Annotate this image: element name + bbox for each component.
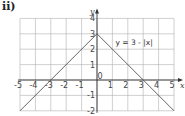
- svg-text:-1: -1: [87, 91, 95, 100]
- svg-text:2: 2: [90, 45, 95, 54]
- svg-text:5: 5: [169, 81, 174, 90]
- axes: [18, 8, 183, 112]
- graph: -5-4-3-2-1012345-2-11234 y = 3 - |x| x y: [0, 0, 185, 116]
- x-axis-label: x: [180, 81, 185, 90]
- svg-text:3: 3: [139, 81, 144, 90]
- svg-text:4: 4: [154, 81, 159, 90]
- svg-text:-2: -2: [60, 81, 68, 90]
- y-axis-label: y: [89, 7, 95, 16]
- equation-label: y = 3 - |x|: [115, 38, 152, 47]
- svg-text:-5: -5: [14, 81, 22, 90]
- svg-text:-4: -4: [29, 81, 37, 90]
- svg-text:1: 1: [108, 81, 113, 90]
- svg-text:-2: -2: [87, 107, 95, 116]
- svg-text:0: 0: [97, 72, 102, 81]
- svg-text:2: 2: [123, 81, 128, 90]
- svg-text:1: 1: [90, 61, 95, 70]
- svg-text:3: 3: [90, 30, 95, 39]
- svg-text:-1: -1: [76, 81, 84, 90]
- tick-labels: -5-4-3-2-1012345-2-11234: [14, 14, 175, 115]
